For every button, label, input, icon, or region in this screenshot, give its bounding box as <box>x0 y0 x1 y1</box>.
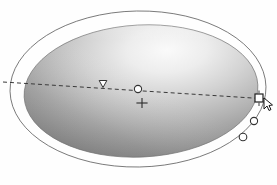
handle-circle-lower-2[interactable] <box>239 133 247 141</box>
viewport-canvas[interactable]: Perspective Ellipsoid Selection Boundary… <box>0 0 277 185</box>
circle-handle-icon-1[interactable] <box>250 117 257 124</box>
handle-circle-lower-1[interactable] <box>250 117 257 124</box>
circle-node-icon[interactable] <box>134 85 141 92</box>
handle-circle-axis-node[interactable] <box>134 85 141 92</box>
square-handle-icon[interactable] <box>255 94 263 102</box>
cursor-arrow-icon <box>264 98 273 111</box>
circle-handle-icon-2[interactable] <box>239 133 247 141</box>
scene-render[interactable] <box>0 0 277 185</box>
mouse-cursor <box>264 98 273 111</box>
